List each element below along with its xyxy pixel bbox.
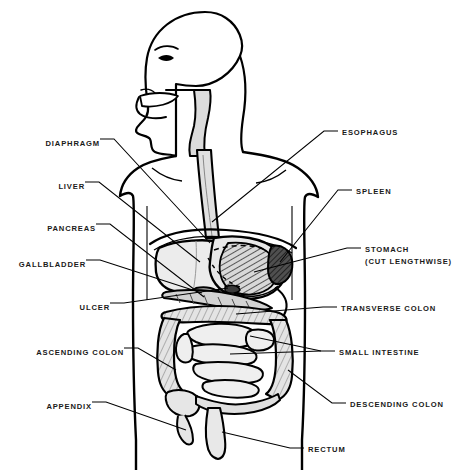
small-intestine-coil-5-path	[202, 380, 258, 398]
label-gallbladder: GALLBLADDER	[0, 259, 86, 271]
cecum-path	[166, 390, 200, 416]
leader-descending-colon	[288, 370, 346, 403]
clavicle-right-path	[256, 170, 286, 183]
leader-spleen	[280, 190, 352, 262]
clavicle-left-path	[152, 168, 182, 181]
rectum-path	[206, 408, 225, 459]
label-rectum: RECTUM	[308, 444, 346, 456]
anatomy-diagram: DIAPHRAGM LIVER PANCREAS GALLBLADDER ULC…	[0, 0, 457, 470]
label-transverse-colon: TRANSVERSE COLON	[341, 303, 436, 315]
esophagus-path	[197, 150, 219, 238]
label-stomach: STOMACH	[365, 244, 409, 256]
label-liver: LIVER	[0, 181, 85, 193]
label-diaphragm: DIAPHRAGM	[0, 138, 100, 150]
label-pancreas: PANCREAS	[0, 223, 96, 235]
label-stomach-note: (CUT LENGTHWISE)	[365, 256, 452, 268]
label-spleen: SPLEEN	[356, 186, 391, 198]
label-esophagus: ESOPHAGUS	[342, 127, 398, 139]
label-small-intestine: SMALL INTESTINE	[339, 347, 420, 359]
neck-back-path	[240, 56, 245, 152]
ulcer-path	[225, 285, 240, 293]
esophagus-group	[197, 150, 219, 238]
label-descending-colon: DESCENDING COLON	[350, 399, 444, 411]
small-intestine-coil-6-path	[176, 334, 193, 363]
leader-rectum	[222, 432, 304, 448]
label-ulcer: ULCER	[0, 302, 110, 314]
label-ascending-colon: ASCENDING COLON	[0, 347, 124, 359]
label-appendix: APPENDIX	[0, 401, 92, 413]
small-intestine-group	[176, 324, 274, 398]
head-profile-path	[136, 12, 242, 156]
